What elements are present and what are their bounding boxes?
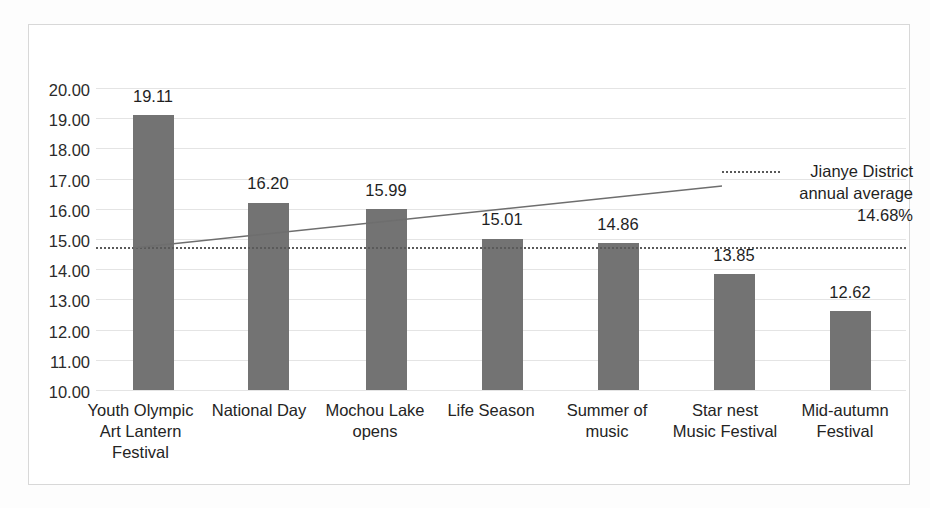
bar-value-label: 19.11 bbox=[113, 88, 193, 105]
y-tick-label: 16.00 bbox=[20, 203, 90, 220]
y-tick-label: 10.00 bbox=[20, 384, 90, 401]
bar bbox=[714, 274, 755, 390]
reference-line-annotation: Jianye Districtannual average14.68% bbox=[600, 161, 913, 226]
bar-value-label: 15.99 bbox=[346, 182, 426, 199]
gridline bbox=[96, 390, 906, 391]
x-category-label: Mochou Lakeopens bbox=[311, 400, 439, 442]
bar-value-label: 15.01 bbox=[462, 211, 542, 228]
bar bbox=[598, 243, 639, 390]
bar bbox=[482, 239, 523, 390]
cat-line: Life Season bbox=[447, 401, 534, 419]
y-tick-label: 17.00 bbox=[20, 173, 90, 190]
annotation-line-1: Jianye District bbox=[810, 162, 913, 180]
bar-value-label: 13.85 bbox=[694, 247, 774, 264]
cat-line: music bbox=[585, 422, 628, 440]
x-category-label: Mid-autumnFestival bbox=[780, 400, 910, 442]
y-tick-label: 15.00 bbox=[20, 233, 90, 250]
bar bbox=[830, 311, 871, 390]
cat-line: Mid-autumn bbox=[801, 401, 888, 419]
cat-line: Festival bbox=[817, 422, 874, 440]
bar-value-label: 16.20 bbox=[228, 175, 308, 192]
annotation-line-2: annual average bbox=[799, 184, 913, 202]
gridline bbox=[96, 88, 906, 89]
x-category-label: Life Season bbox=[429, 400, 553, 421]
y-tick-label: 14.00 bbox=[20, 263, 90, 280]
x-category-label: Summer ofmusic bbox=[545, 400, 669, 442]
x-category-label: Star nestMusic Festival bbox=[658, 400, 792, 442]
y-tick-label: 11.00 bbox=[20, 354, 90, 371]
bar bbox=[248, 203, 289, 390]
y-tick-label: 20.00 bbox=[20, 82, 90, 99]
average-reference-line bbox=[96, 247, 906, 249]
cat-line: Festival bbox=[112, 443, 169, 461]
bar bbox=[366, 209, 407, 390]
annotation-line-3: 14.68% bbox=[857, 206, 913, 224]
y-tick-label: 18.00 bbox=[20, 142, 90, 159]
x-category-label: Youth OlympicArt LanternFestival bbox=[73, 400, 208, 463]
plot-area bbox=[96, 88, 906, 390]
chart-root: 20.00 19.00 18.00 17.00 16.00 15.00 14.0… bbox=[0, 0, 930, 508]
x-category-label: National Day bbox=[196, 400, 322, 421]
cat-line: opens bbox=[353, 422, 398, 440]
gridline bbox=[96, 118, 906, 119]
cat-line: Music Festival bbox=[673, 422, 778, 440]
y-tick-label: 13.00 bbox=[20, 293, 90, 310]
bar-value-label: 12.62 bbox=[810, 284, 890, 301]
cat-line: Youth Olympic bbox=[88, 401, 194, 419]
cat-line: Art Lantern bbox=[100, 422, 182, 440]
y-axis-tick-labels: 20.00 19.00 18.00 17.00 16.00 15.00 14.0… bbox=[18, 88, 90, 390]
bar bbox=[133, 115, 174, 390]
y-tick-label: 12.00 bbox=[20, 324, 90, 341]
cat-line: Mochou Lake bbox=[325, 401, 424, 419]
cat-line: Summer of bbox=[567, 401, 648, 419]
gridline bbox=[96, 148, 906, 149]
cat-line: Star nest bbox=[692, 401, 758, 419]
cat-line: National Day bbox=[212, 401, 306, 419]
y-tick-label: 19.00 bbox=[20, 112, 90, 129]
